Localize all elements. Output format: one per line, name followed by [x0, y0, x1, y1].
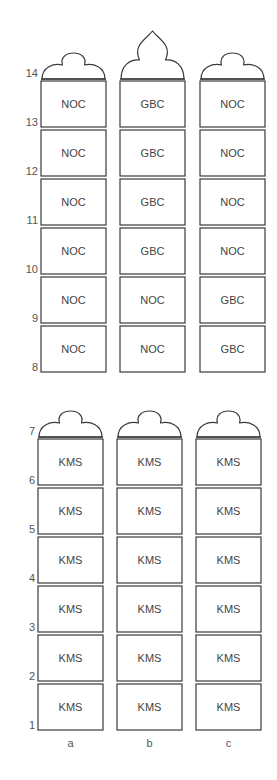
cell-label: NOC: [140, 294, 165, 306]
cell-label: GBC: [141, 147, 165, 159]
cell-label: NOC: [61, 294, 86, 306]
cell-label: GBC: [141, 196, 165, 208]
block-diagram: NOCGBCNOCNOCGBCNOCNOCGBCNOCNOCGBCNOCNOCN…: [0, 0, 277, 780]
row-number-label: 10: [26, 263, 38, 275]
cell-label: NOC: [61, 98, 86, 110]
cell-label: GBC: [221, 343, 245, 355]
cell-label: KMS: [138, 701, 162, 713]
row-number-label: 1: [29, 719, 35, 731]
cell-label: KMS: [217, 505, 241, 517]
row-number-label: 14: [26, 67, 38, 79]
cell-label: KMS: [138, 652, 162, 664]
cell-label: GBC: [221, 294, 245, 306]
round-dome-icon: [197, 411, 260, 437]
cell-label: GBC: [141, 98, 165, 110]
cell-label: GBC: [141, 245, 165, 257]
cell-label: KMS: [217, 554, 241, 566]
pointed-dome-icon: [121, 31, 184, 79]
cell-label: KMS: [138, 505, 162, 517]
row-number-label: 3: [29, 621, 35, 633]
cell-label: NOC: [61, 343, 86, 355]
row-number-label: 4: [29, 572, 35, 584]
cell-label: KMS: [138, 603, 162, 615]
cell-label: NOC: [220, 98, 245, 110]
diagram-canvas: NOCGBCNOCNOCGBCNOCNOCGBCNOCNOCGBCNOCNOCN…: [0, 0, 277, 780]
row-number-label: 11: [27, 214, 38, 226]
row-number-label: 5: [29, 523, 35, 535]
cell-label: NOC: [61, 196, 86, 208]
row-number-label: 2: [29, 670, 35, 682]
cell-label: NOC: [220, 245, 245, 257]
row-number-label: 9: [32, 312, 38, 324]
cell-label: NOC: [220, 147, 245, 159]
cell-label: KMS: [138, 554, 162, 566]
row-number-label: 12: [26, 165, 38, 177]
column-label: c: [226, 737, 232, 749]
cell-label: NOC: [220, 196, 245, 208]
column-label: b: [146, 737, 152, 749]
cell-label: KMS: [217, 701, 241, 713]
cell-label: KMS: [138, 456, 162, 468]
cell-label: KMS: [59, 554, 83, 566]
round-dome-icon: [42, 53, 105, 79]
row-number-label: 7: [29, 425, 35, 437]
cell-label: KMS: [59, 603, 83, 615]
cell-label: KMS: [217, 603, 241, 615]
round-dome-icon: [118, 411, 181, 437]
cell-label: KMS: [59, 701, 83, 713]
cell-label: KMS: [59, 456, 83, 468]
cell-label: NOC: [61, 245, 86, 257]
row-number-label: 8: [32, 361, 38, 373]
cell-label: KMS: [217, 652, 241, 664]
round-dome-icon: [201, 53, 264, 79]
column-label: a: [67, 737, 74, 749]
round-dome-icon: [39, 411, 102, 437]
cell-label: NOC: [140, 343, 165, 355]
cell-label: KMS: [59, 652, 83, 664]
row-number-label: 13: [26, 116, 38, 128]
cell-label: NOC: [61, 147, 86, 159]
cell-label: KMS: [217, 456, 241, 468]
cell-label: KMS: [59, 505, 83, 517]
row-number-label: 6: [29, 474, 35, 486]
